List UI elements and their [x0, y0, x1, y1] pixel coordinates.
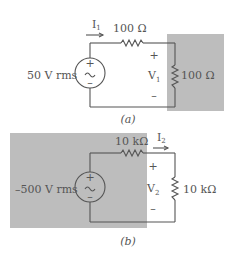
voltage-a-minus: – — [151, 89, 157, 102]
current-a-label: I1 — [92, 18, 101, 32]
resistor-b-load-label: 10 kΩ — [183, 183, 216, 196]
resistor-b-load-icon — [172, 177, 178, 200]
circuit-diagram: + – 50 V rms I1 100 Ω 100 Ω + V1 – (a) +… — [0, 0, 235, 253]
resistor-a-load-label: 100 Ω — [181, 69, 215, 82]
current-b-label: I2 — [157, 131, 166, 145]
circuit-a — [75, 33, 178, 107]
resistor-b-series-label: 10 kΩ — [115, 135, 148, 148]
source-b-plus: + — [85, 171, 94, 184]
voltage-b-minus: – — [150, 202, 156, 215]
source-b-minus: – — [87, 190, 93, 203]
caption-b: (b) — [120, 235, 136, 248]
voltage-b-label: V2 — [146, 182, 159, 197]
source-a-plus: + — [85, 57, 94, 70]
source-a-minus: – — [87, 76, 93, 89]
source-b-label: –500 V rms — [15, 183, 78, 196]
voltage-b-plus: + — [148, 160, 157, 173]
resistor-a-series-icon — [121, 40, 143, 46]
source-a-label: 50 V rms — [27, 69, 78, 82]
voltage-a-label: V1 — [147, 69, 160, 84]
resistor-a-series-label: 100 Ω — [113, 22, 147, 35]
voltage-a-plus: + — [149, 49, 158, 62]
circuit-figure: + – 50 V rms I1 100 Ω 100 Ω + V1 – (a) +… — [0, 0, 235, 253]
caption-a: (a) — [120, 113, 135, 126]
